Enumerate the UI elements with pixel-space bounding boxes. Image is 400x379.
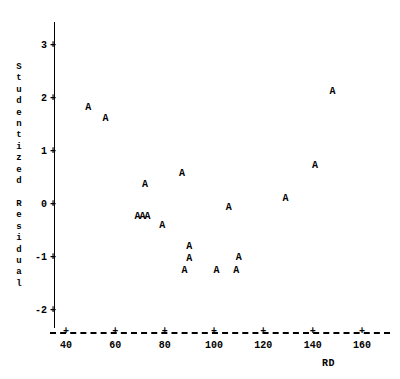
x-tick-label-160: 160: [353, 341, 371, 351]
y-tick-label-3: 3: [41, 41, 47, 50]
y-tick-3: +3: [50, 41, 56, 50]
x-tick-60: +60: [112, 327, 118, 337]
data-point: A: [159, 221, 165, 231]
y-tick-label-0: 0: [41, 200, 47, 209]
y-tick-label--1: -1: [35, 253, 47, 262]
data-point: A: [236, 253, 242, 263]
y-tick-label-1: 1: [41, 147, 47, 156]
data-point: A: [181, 266, 187, 276]
x-axis-title: RD: [322, 358, 335, 369]
data-point: A: [186, 242, 192, 252]
x-tick-160: +160: [359, 327, 365, 337]
x-axis-line: [50, 332, 390, 334]
x-tick-label-60: 60: [109, 341, 121, 351]
y-axis-title: S t u d e n t i z e d R e s i d u a l: [13, 62, 25, 290]
x-tick-label-40: 40: [60, 341, 72, 351]
data-point: A: [186, 254, 192, 264]
data-point: A: [233, 266, 239, 276]
x-tick-40: +40: [63, 327, 69, 337]
y-tick--1: +-1: [50, 253, 56, 262]
data-point: A: [102, 114, 108, 124]
x-tick-80: +80: [162, 327, 168, 337]
y-tick-1: +1: [50, 147, 56, 156]
scatter-plot: S t u d e n t i z e d R e s i d u a l RD…: [0, 0, 400, 379]
x-tick-label-80: 80: [159, 341, 171, 351]
x-tick-100: +100: [211, 327, 217, 337]
data-point: A: [329, 87, 335, 97]
data-point: A: [226, 203, 232, 213]
data-point: A: [85, 103, 91, 113]
data-point: A: [144, 212, 150, 222]
x-tick-label-100: 100: [205, 341, 223, 351]
y-tick-0: +0: [50, 200, 56, 209]
x-tick-120: +120: [260, 327, 266, 337]
data-point: A: [283, 194, 289, 204]
x-tick-label-140: 140: [304, 341, 322, 351]
data-point: A: [142, 180, 148, 190]
data-point: A: [213, 266, 219, 276]
y-axis-line: [54, 22, 55, 328]
y-tick-label--2: -2: [35, 306, 47, 315]
data-point: A: [179, 169, 185, 179]
y-tick-label-2: 2: [41, 94, 47, 103]
data-point: A: [312, 161, 318, 171]
x-tick-140: +140: [310, 327, 316, 337]
y-tick--2: +-2: [50, 306, 56, 315]
y-tick-2: +2: [50, 94, 56, 103]
x-tick-label-120: 120: [254, 341, 272, 351]
